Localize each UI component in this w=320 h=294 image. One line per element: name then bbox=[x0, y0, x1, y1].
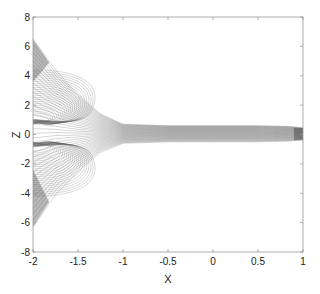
x-tick-label: 0 bbox=[210, 256, 216, 267]
x-tick-label: -2 bbox=[29, 256, 38, 267]
y-tick-label: 0 bbox=[24, 129, 30, 140]
contour-line bbox=[33, 52, 303, 129]
y-tick-label: -2 bbox=[21, 158, 30, 169]
x-tick-label: 1 bbox=[300, 256, 306, 267]
x-tick-label: -0.5 bbox=[159, 256, 177, 267]
y-tick-label: 4 bbox=[24, 70, 30, 81]
y-tick-label: 6 bbox=[24, 41, 30, 52]
y-axis-label: Z bbox=[10, 131, 22, 138]
contour-line bbox=[33, 137, 303, 182]
y-tick-label: 2 bbox=[24, 100, 30, 111]
contour-line bbox=[33, 137, 303, 177]
contour-line bbox=[33, 138, 303, 203]
contour-line bbox=[33, 39, 303, 128]
x-axis-label: X bbox=[164, 273, 172, 285]
y-tick-label: -4 bbox=[21, 188, 30, 199]
contour-plot: -2-1.5-1-0.500.51 -8-6-4-202468 X Z bbox=[0, 0, 320, 294]
y-tick-label: -8 bbox=[21, 247, 30, 258]
contour-lines bbox=[33, 39, 303, 227]
y-tick-label: -6 bbox=[21, 217, 30, 228]
contour-line bbox=[33, 138, 303, 208]
x-tick-label: 0.5 bbox=[251, 256, 265, 267]
x-tick-label: -1.5 bbox=[69, 256, 87, 267]
x-tick-label: -1 bbox=[119, 256, 128, 267]
y-tick-label: 8 bbox=[24, 12, 30, 23]
